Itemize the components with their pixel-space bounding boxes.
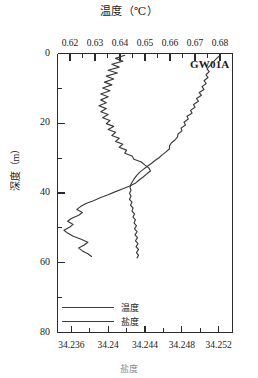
y-tick-label-4: 80 <box>20 326 50 337</box>
series-path-salinity <box>64 55 151 256</box>
series-layer <box>64 55 220 258</box>
series-path-temperature <box>130 55 221 258</box>
chart-figure: 温度（℃） 深度（m） 盐度 GW01A 温度 盐度 0.620.630.640… <box>0 0 258 378</box>
y-tick-label-0: 0 <box>20 47 50 58</box>
bottom-tick-label-4: 34.252 <box>197 340 241 350</box>
axes-layer <box>58 54 233 333</box>
top-tick-label-6: 0.68 <box>203 38 237 48</box>
y-tick-label-2: 40 <box>20 186 50 197</box>
y-tick-label-1: 20 <box>20 116 50 127</box>
y-tick-label-3: 60 <box>20 256 50 267</box>
